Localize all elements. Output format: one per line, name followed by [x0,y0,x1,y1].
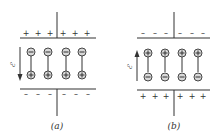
dipole [44,48,52,79]
dipole [62,48,70,79]
charge-sign: + [152,92,159,101]
dipole [27,48,35,79]
charge-sign: – [24,90,28,99]
charge-sign: – [86,90,90,99]
charge-sign: + [35,29,42,38]
top-plate-charges: – – – – – – [141,29,205,38]
dipoles-a [27,48,86,79]
charge-sign: – [201,29,205,38]
charge-sign: – [141,29,145,38]
charge-sign: + [200,92,207,101]
charge-sign: – [48,90,52,99]
charge-sign: + [47,29,54,38]
bottom-plate-charges: + + + + + + [140,92,207,101]
charge-sign: – [62,90,66,99]
dipole [161,49,169,81]
charge-sign: + [72,29,79,38]
charge-sign: + [23,29,30,38]
charge-sign: + [163,92,170,101]
field-symbol: ℰ [9,61,18,68]
charge-sign: + [140,92,147,101]
dipole [144,49,152,81]
charge-sign: + [189,92,196,101]
field-arrow-up-icon [135,50,140,81]
charge-sign: + [84,29,91,38]
panel-label-b: (b) [168,121,181,131]
dipoles-b [144,49,202,81]
dipole [194,49,202,81]
charge-sign: – [153,29,157,38]
charge-sign: – [36,90,40,99]
charge-sign: + [177,92,184,101]
charge-sign: – [178,29,182,38]
dipole [178,49,186,81]
charge-sign: – [74,90,78,99]
panel-b: – – – – – – [126,12,210,131]
field-symbol: ℰ [126,63,135,70]
panel-a: + + + + + + [9,12,96,131]
charge-sign: – [164,29,168,38]
panel-label-a: (a) [51,121,64,131]
charge-sign: – [190,29,194,38]
field-arrow-down-icon [18,47,23,81]
dipole [78,48,86,79]
capacitor-dipole-diagram: + + + + + + [0,0,221,138]
charge-sign: + [60,29,67,38]
